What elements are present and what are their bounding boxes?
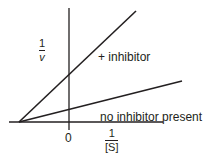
- y-axis-denominator: v: [39, 52, 45, 63]
- inhibitor-line: [19, 11, 136, 122]
- plus-inhibitor-label: + inhibitor: [98, 51, 150, 63]
- no-inhibitor-label: no inhibitor present: [100, 111, 202, 123]
- y-axis-label: 1 v: [39, 38, 45, 63]
- y-axis-numerator: 1: [39, 38, 45, 49]
- x-axis-denominator: [S]: [105, 142, 118, 153]
- x-axis-numerator: 1: [109, 128, 115, 139]
- x-axis-label: 1 [S]: [105, 128, 118, 153]
- origin-label: 0: [65, 132, 72, 144]
